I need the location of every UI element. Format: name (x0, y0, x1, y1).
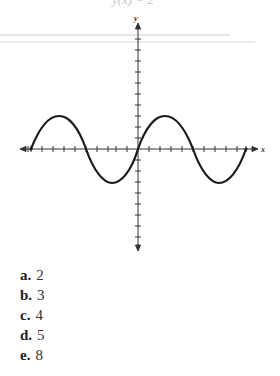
x-axis-right-arrow-icon (252, 147, 258, 152)
choice-letter: b. (20, 287, 32, 303)
choice-letter: d. (20, 327, 32, 343)
curve-end-point (244, 147, 247, 150)
x-axis-left-arrow-icon (20, 147, 26, 152)
choice-letter: e. (20, 347, 30, 363)
choice-letter: c. (20, 307, 30, 323)
x-axis-label: x (260, 145, 265, 154)
choice-value: 5 (37, 327, 45, 343)
choice-value: 8 (35, 347, 43, 363)
sine-graph: x y (0, 0, 280, 260)
y-axis-down-arrow-icon (136, 245, 141, 251)
choice-e[interactable]: e.8 (20, 345, 45, 365)
y-axis-up-arrow-icon (136, 23, 141, 29)
choice-value: 2 (36, 267, 44, 283)
choice-value: 3 (37, 287, 45, 303)
y-axis-label: y (133, 14, 138, 23)
choice-a[interactable]: a.2 (20, 265, 45, 285)
y-axis (135, 23, 141, 251)
curve-start-point (29, 147, 32, 150)
choice-c[interactable]: c.4 (20, 305, 45, 325)
answer-choices: a.2 b.3 c.4 d.5 e.8 (20, 265, 45, 365)
choice-letter: a. (20, 267, 31, 283)
choice-d[interactable]: d.5 (20, 325, 45, 345)
choice-value: 4 (35, 307, 43, 323)
choice-b[interactable]: b.3 (20, 285, 45, 305)
